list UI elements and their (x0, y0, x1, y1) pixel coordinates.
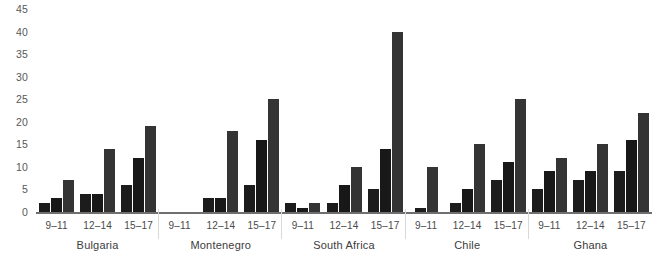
bar[interactable] (415, 208, 426, 213)
bar[interactable] (638, 113, 649, 212)
bar[interactable] (327, 203, 338, 212)
age-group (36, 9, 77, 212)
bar[interactable] (462, 189, 473, 212)
x-axis-tick-label: 9–11 (159, 216, 200, 236)
x-axis-tick-label: 9–11 (282, 216, 323, 236)
country-group-montenegro (159, 9, 282, 212)
x-axis-tick-label: 12–14 (570, 216, 611, 236)
x-axis-tick-label: 9–11 (529, 216, 570, 236)
bar[interactable] (515, 99, 526, 212)
bar[interactable] (585, 171, 596, 212)
bar-groups (36, 9, 652, 212)
x-axis-tick-label: 15–17 (365, 216, 406, 236)
age-group (323, 9, 364, 212)
bar[interactable] (368, 189, 379, 212)
bar[interactable] (556, 158, 567, 212)
age-group (447, 9, 488, 212)
x-label-block: 9–1112–1415–17 (529, 216, 652, 236)
country-group-south-africa (282, 9, 405, 212)
y-axis-tick-label: 0 (22, 206, 28, 218)
bar[interactable] (626, 140, 637, 212)
x-axis-tick-label: 12–14 (447, 216, 488, 236)
bar[interactable] (285, 203, 296, 212)
bar[interactable] (227, 131, 238, 212)
x-axis-age-labels: 9–1112–1415–179–1112–1415–179–1112–1415–… (36, 216, 652, 236)
x-label-block: 9–1112–1415–17 (282, 216, 405, 236)
country-group-bulgaria (36, 9, 159, 212)
country-label: Chile (406, 239, 529, 257)
y-axis-tick-label: 45 (16, 3, 28, 15)
country-label: Bulgaria (36, 239, 159, 257)
y-axis-tick-label: 10 (16, 161, 28, 173)
age-group (406, 9, 447, 212)
bar[interactable] (215, 198, 226, 212)
bar[interactable] (244, 185, 255, 212)
age-group (118, 9, 159, 212)
x-axis-country-labels: BulgariaMontenegroSouth AfricaChileGhana (36, 239, 652, 257)
bar[interactable] (51, 198, 62, 212)
age-group (159, 9, 200, 212)
bar[interactable] (339, 185, 350, 212)
bar[interactable] (380, 149, 391, 212)
bar[interactable] (392, 32, 403, 212)
bar[interactable] (268, 99, 279, 212)
y-axis-tick-label: 20 (16, 116, 28, 128)
x-axis-tick-label: 12–14 (200, 216, 241, 236)
x-axis-tick-label: 15–17 (611, 216, 652, 236)
bar[interactable] (597, 144, 608, 212)
age-group (200, 9, 241, 212)
country-group-ghana (529, 9, 652, 212)
bar[interactable] (203, 198, 214, 212)
y-axis-tick-label: 40 (16, 26, 28, 38)
x-label-block: 9–1112–1415–17 (159, 216, 282, 236)
bar[interactable] (309, 203, 320, 212)
bar[interactable] (104, 149, 115, 212)
y-axis-tick-label: 25 (16, 93, 28, 105)
x-axis-tick-label: 12–14 (77, 216, 118, 236)
x-axis-tick-label: 15–17 (241, 216, 282, 236)
bar[interactable] (133, 158, 144, 212)
bar[interactable] (427, 167, 438, 212)
bar[interactable] (474, 144, 485, 212)
age-group (241, 9, 282, 212)
x-axis-baseline (36, 212, 652, 214)
age-group (570, 9, 611, 212)
y-axis-tick-label: 5 (22, 183, 28, 195)
age-group (77, 9, 118, 212)
bar[interactable] (614, 171, 625, 212)
bar[interactable] (80, 194, 91, 212)
x-axis-tick-label: 12–14 (323, 216, 364, 236)
x-axis-tick-label: 9–11 (36, 216, 77, 236)
x-axis-tick-label: 15–17 (118, 216, 159, 236)
bar[interactable] (351, 167, 362, 212)
bar[interactable] (544, 171, 555, 212)
bar[interactable] (63, 180, 74, 212)
country-group-chile (406, 9, 529, 212)
bar[interactable] (256, 140, 267, 212)
age-group (365, 9, 406, 212)
bar[interactable] (450, 203, 461, 212)
y-axis-tick-label: 35 (16, 48, 28, 60)
bar[interactable] (92, 194, 103, 212)
x-axis-tick-label: 15–17 (488, 216, 529, 236)
country-label: Ghana (529, 239, 652, 257)
bar[interactable] (39, 203, 50, 212)
age-group (611, 9, 652, 212)
bar[interactable] (121, 185, 132, 212)
x-label-block: 9–1112–1415–17 (36, 216, 159, 236)
bar[interactable] (503, 162, 514, 212)
x-label-block: 9–1112–1415–17 (406, 216, 529, 236)
bar[interactable] (573, 180, 584, 212)
bar[interactable] (145, 126, 156, 212)
country-label: Montenegro (159, 239, 282, 257)
country-label: South Africa (282, 239, 405, 257)
bar[interactable] (491, 180, 502, 212)
y-axis: 051015202530354045 (0, 0, 36, 225)
bar[interactable] (297, 208, 308, 213)
x-axis-tick-label: 9–11 (406, 216, 447, 236)
y-axis-tick-label: 15 (16, 138, 28, 150)
age-group (282, 9, 323, 212)
bar-chart: 051015202530354045 9–1112–1415–179–1112–… (0, 0, 660, 265)
bar[interactable] (532, 189, 543, 212)
age-group (529, 9, 570, 212)
